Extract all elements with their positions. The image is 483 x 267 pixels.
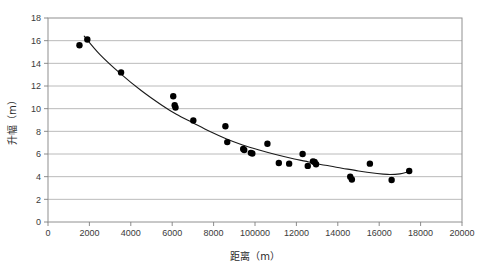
data-point [241,147,247,153]
y-tick-label: 14 [31,59,41,69]
data-point [118,69,124,75]
y-tick-label: 2 [36,195,41,205]
y-axis-tick-labels: 024681012141618 [31,13,41,227]
x-axis-ticks [48,222,462,226]
y-tick-label: 6 [36,149,41,159]
x-tick-label: 18000 [408,228,433,238]
x-axis-tick-labels: 0200040006000800010000012000140001600018… [45,228,474,238]
x-tick-label: 6000 [162,228,182,238]
data-point [264,141,270,147]
x-tick-label: 16000 [367,228,392,238]
data-point [406,168,412,174]
x-tick-label: 4000 [121,228,141,238]
data-point [76,42,82,48]
data-point [286,160,292,166]
data-point [172,104,178,110]
x-tick-label: 20000 [449,228,474,238]
data-point [299,151,305,157]
data-point [349,176,355,182]
y-axis-ticks [44,18,48,222]
y-tick-label: 12 [31,81,41,91]
y-tick-label: 4 [36,172,41,182]
data-point [305,163,311,169]
x-tick-label: 14000 [325,228,350,238]
plot-area-background [48,18,462,222]
data-point [388,177,394,183]
data-point [170,93,176,99]
data-point [367,160,373,166]
data-point [222,123,228,129]
data-point [313,161,319,167]
chart-container: 0200040006000800010000012000140001600018… [0,0,483,267]
x-tick-label: 2000 [79,228,99,238]
data-point [276,160,282,166]
x-tick-label: 100000 [240,228,270,238]
data-point [190,117,196,123]
scatter-chart: 0200040006000800010000012000140001600018… [0,0,483,267]
x-tick-label: 8000 [204,228,224,238]
data-point [224,139,230,145]
y-tick-label: 10 [31,104,41,114]
x-tick-label: 12000 [284,228,309,238]
data-point [249,150,255,156]
x-axis-title: 距离（m） [230,250,280,262]
y-tick-label: 0 [36,217,41,227]
y-axis-title: 升幅（m） [6,95,18,145]
x-tick-label: 0 [45,228,50,238]
y-tick-label: 18 [31,13,41,23]
y-tick-label: 8 [36,127,41,137]
y-tick-label: 16 [31,36,41,46]
data-point [84,36,90,42]
